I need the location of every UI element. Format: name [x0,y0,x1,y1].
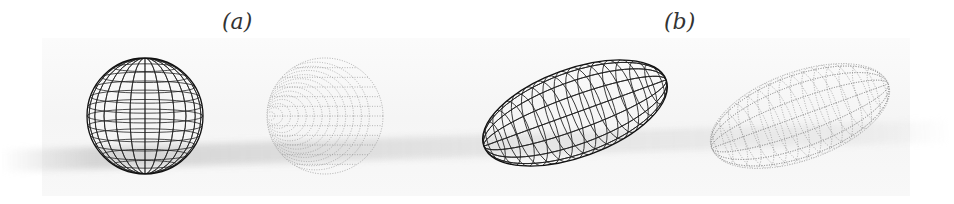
ellipsoid-pointcloud [697,43,904,190]
figure-graphics [0,0,954,204]
sphere-pointcloud [262,62,383,170]
ellipsoid-wireframe [469,38,681,187]
